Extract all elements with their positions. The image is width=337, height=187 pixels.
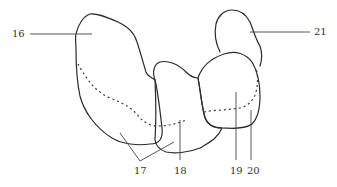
label-16: 16 [12, 29, 25, 39]
anatomical-diagram [0, 0, 337, 187]
label-17: 17 [134, 166, 147, 176]
left-lobe-outline [76, 14, 163, 145]
label-19: 19 [230, 166, 243, 176]
left-lobe-dashed-contour [78, 64, 186, 126]
middle-lobe-outline [154, 61, 222, 152]
right-lobe-dashed-contour [204, 68, 258, 112]
leader-line-17a [120, 133, 140, 161]
label-20: 20 [247, 166, 260, 176]
label-18: 18 [174, 166, 187, 176]
label-21: 21 [314, 27, 327, 37]
upper-right-lobe-outline [215, 10, 261, 66]
